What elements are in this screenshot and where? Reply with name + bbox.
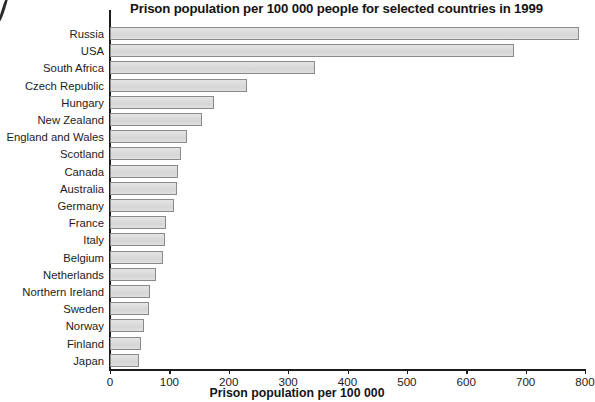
bar <box>110 130 187 143</box>
y-axis-tick-label: Italy <box>0 234 104 246</box>
y-axis-tick-label: Norway <box>0 320 104 332</box>
x-axis-tick-label: 400 <box>338 375 357 388</box>
bar <box>110 96 214 109</box>
y-axis-tick-label: USA <box>0 45 104 57</box>
y-axis-tick-label: South Africa <box>0 62 104 74</box>
y-axis-category-labels: RussiaUSASouth AfricaCzech RepublicHunga… <box>0 20 104 368</box>
x-axis-tick <box>526 369 527 374</box>
y-axis-tick-label: New Zealand <box>0 114 104 126</box>
bar <box>110 44 514 57</box>
x-axis-tick-label: 200 <box>219 375 238 388</box>
x-axis-tick <box>229 369 230 374</box>
x-axis-title: Prison population per 100 000 <box>0 386 594 400</box>
x-axis-tick <box>407 369 408 374</box>
page-scan-artifact <box>0 0 18 22</box>
y-axis-tick-label: Germany <box>0 200 104 212</box>
y-axis-tick-label: Northern Ireland <box>0 286 104 298</box>
x-axis-tick-label: 300 <box>278 375 297 388</box>
x-axis-tick <box>110 369 111 374</box>
bar <box>110 337 141 350</box>
y-axis-tick-label: Finland <box>0 338 104 350</box>
y-axis-tick-label: Hungary <box>0 97 104 109</box>
bar <box>110 233 165 246</box>
x-axis-tick <box>585 369 586 374</box>
bar <box>110 147 181 160</box>
bar <box>110 113 202 126</box>
bar <box>110 354 139 367</box>
y-axis-tick-label: England and Wales <box>0 131 104 143</box>
bar <box>110 27 579 40</box>
x-axis-tick <box>348 369 349 374</box>
y-axis-tick-label: France <box>0 217 104 229</box>
bar <box>110 302 149 315</box>
y-axis-tick-label: Japan <box>0 355 104 367</box>
bar <box>110 199 174 212</box>
y-axis-tick-label: Belgium <box>0 252 104 264</box>
y-axis-tick-label: Sweden <box>0 303 104 315</box>
bar <box>110 61 315 74</box>
x-axis-tick-label: 500 <box>397 375 416 388</box>
y-axis-tick-label: Scotland <box>0 148 104 160</box>
y-axis-tick-label: Canada <box>0 166 104 178</box>
y-axis-tick-label: Netherlands <box>0 269 104 281</box>
y-axis-tick-label: Australia <box>0 183 104 195</box>
bar <box>110 79 247 92</box>
x-axis-tick-label: 0 <box>107 375 113 388</box>
bar <box>110 251 163 264</box>
y-axis-tick-label: Russia <box>0 28 104 40</box>
x-axis-tick <box>288 369 289 374</box>
chart-title: Prison population per 100 000 people for… <box>130 1 590 16</box>
bar <box>110 319 144 332</box>
x-axis-tick-label: 100 <box>160 375 179 388</box>
x-axis-tick-label: 700 <box>516 375 535 388</box>
bar <box>110 182 177 195</box>
x-axis-tick <box>169 369 170 374</box>
x-axis-tick <box>466 369 467 374</box>
bar <box>110 285 150 298</box>
x-axis-tick-label: 800 <box>575 375 594 388</box>
bar <box>110 268 156 281</box>
bar <box>110 165 178 178</box>
x-axis-tick-label: 600 <box>457 375 476 388</box>
y-axis-tick-label: Czech Republic <box>0 80 104 92</box>
bar <box>110 216 166 229</box>
